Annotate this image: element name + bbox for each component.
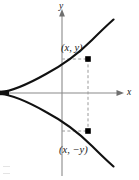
x-axis: [2, 90, 124, 96]
y-axis-label: y: [59, 2, 63, 12]
curve-lower-branch: [0, 94, 114, 167]
point-marker-lower: [85, 128, 91, 134]
point-label-upper: (x, y): [61, 43, 83, 54]
curve-vertex-edge: [0, 91, 9, 96]
x-axis-label: x: [127, 88, 131, 98]
curve-upper-branch: [0, 20, 114, 93]
corner-artifact: [3, 166, 10, 174]
point-marker-upper: [85, 56, 91, 62]
x-axis-arrowhead: [117, 90, 125, 96]
parabola-figure: y x (x, y) (x, −y): [0, 0, 139, 180]
point-label-lower: (x, −y): [59, 145, 88, 156]
guide-lines: [62, 59, 88, 131]
